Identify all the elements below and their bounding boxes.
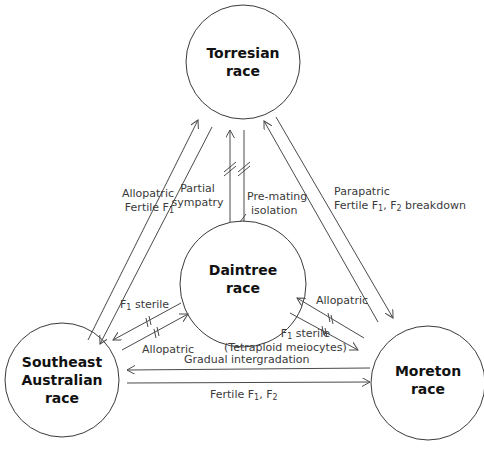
text-fragment: , F [383, 199, 396, 212]
text-fragment: breakdown [402, 199, 466, 212]
edge-label-line: Parapatric [334, 185, 466, 199]
southeast-line2: Australian [7, 371, 117, 389]
barrier-mark [154, 329, 156, 338]
torresian-node-label: Torresian race [193, 44, 293, 80]
edge-label-line: Fertile F1 [88, 201, 174, 215]
barrier-mark [157, 327, 159, 336]
torresian-line1: Torresian [193, 44, 293, 62]
barrier-mark [146, 318, 148, 327]
edge-label-fertile-f1-f2: Fertile F1, F2 [210, 388, 278, 402]
edge-label-daintree-moreton-allopatric: Allopatric [316, 294, 368, 308]
moreton-line2: race [378, 380, 478, 398]
edge-label-line: Fertile F1, F2 breakdown [334, 199, 466, 213]
edge-label-daintree-southeast-f1-sterile: F1 sterile [120, 298, 169, 312]
moreton-node-label: Moreton race [378, 362, 478, 398]
text-fragment: Fertile F [334, 199, 378, 212]
text-fragment: sterile [292, 327, 330, 340]
edge-label-line: Allopatric [88, 187, 174, 201]
moreton-line1: Moreton [378, 362, 478, 380]
text-fragment: Fertile F [210, 388, 254, 401]
text-fragment: , F [259, 388, 272, 401]
southeast-line3: race [7, 389, 117, 407]
arrow-moreton-to-southeast [127, 368, 370, 370]
edge-label-line: Pre-mating [247, 190, 307, 204]
arrow-southeast-to-moreton [127, 382, 370, 383]
text-fragment: sterile [131, 298, 169, 311]
southeast-line1: Southeast [7, 353, 117, 371]
edge-label-line: isolation [247, 204, 307, 218]
edge-label-partial-sympatry: Partial sympatry [170, 182, 225, 210]
text-fragment: Allopatric [316, 294, 368, 307]
daintree-node-label: Daintree race [193, 261, 293, 297]
edge-label-pre-mating-isolation: Pre-mating isolation [247, 190, 307, 218]
text-fragment: Gradual intergradation [184, 353, 310, 366]
daintree-line1: Daintree [193, 261, 293, 279]
edge-label-gradual-intergradation: Gradual intergradation [184, 353, 310, 367]
edge-label-torresian-moreton: Parapatric Fertile F1, F2 breakdown [334, 185, 466, 213]
edge-label-daintree-moreton-f1-sterile: F1 sterile (Tetraploid meiocytes) [224, 327, 346, 355]
daintree-line2: race [193, 279, 293, 297]
text-fragment: Fertile F [125, 201, 169, 214]
southeast-node-label: Southeast Australian race [7, 353, 117, 407]
edge-label-torresian-southeast: Allopatric Fertile F1 [88, 187, 174, 215]
edge-label-line: Partial [170, 182, 225, 196]
subscript: 2 [272, 393, 277, 402]
edge-label-line: sympatry [170, 196, 225, 210]
torresian-line2: race [193, 62, 293, 80]
edge-label-line: F1 sterile [224, 327, 346, 341]
